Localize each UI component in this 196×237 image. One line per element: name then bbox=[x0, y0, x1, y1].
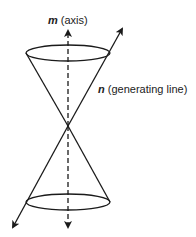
cone-side-top-left bbox=[26, 53, 68, 126]
generating-line-lower bbox=[13, 126, 68, 227]
double-cone-diagram bbox=[0, 0, 196, 237]
generating-line-label: n (generating line) bbox=[98, 84, 187, 95]
axis-label: m (axis) bbox=[48, 15, 88, 26]
axis-description: (axis) bbox=[61, 14, 88, 26]
generating-line-upper bbox=[68, 29, 122, 126]
cone-side-bottom-right bbox=[68, 126, 110, 202]
generating-line-description: (generating line) bbox=[108, 83, 188, 95]
generating-line-variable: n bbox=[98, 83, 105, 95]
axis-variable: m bbox=[48, 14, 58, 26]
